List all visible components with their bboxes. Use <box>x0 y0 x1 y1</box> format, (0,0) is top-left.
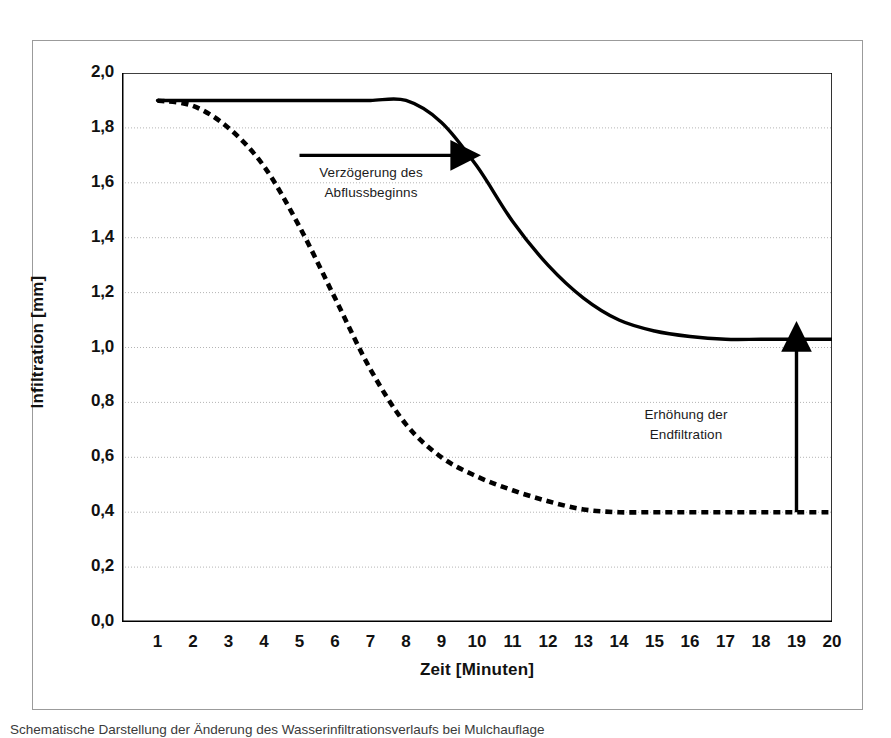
x-tick-label: 19 <box>780 632 814 652</box>
series-line-1 <box>158 100 833 512</box>
x-tick-label: 7 <box>354 632 388 652</box>
figure-container: Infiltration [mm] 0,00,20,40,60,81,01,21… <box>0 0 891 738</box>
x-tick-label: 3 <box>212 632 246 652</box>
gridlines <box>122 128 832 567</box>
x-tick-label: 5 <box>283 632 317 652</box>
increase-annotation-line1: Erhöhung der <box>611 405 761 425</box>
delay-annotation: Verzögerung des Abflussbeginns <box>276 163 466 202</box>
increase-annotation: Erhöhung der Endfiltration <box>611 405 761 444</box>
x-tick-label: 4 <box>247 632 281 652</box>
x-tick-label: 12 <box>531 632 565 652</box>
data-series <box>158 99 833 513</box>
x-tick-label: 11 <box>496 632 530 652</box>
x-tick-label: 6 <box>318 632 352 652</box>
x-tick-label: 16 <box>673 632 707 652</box>
series-line-0 <box>158 99 833 340</box>
annotation-arrows <box>300 155 797 512</box>
x-tick-label: 20 <box>815 632 849 652</box>
x-tick-label: 18 <box>744 632 778 652</box>
plot-area <box>122 73 832 622</box>
chart-svg <box>122 73 832 622</box>
delay-annotation-line1: Verzögerung des <box>276 163 466 183</box>
x-tick-label: 14 <box>602 632 636 652</box>
x-tick-label: 9 <box>425 632 459 652</box>
delay-annotation-line2: Abflussbeginns <box>276 183 466 203</box>
x-tick-label: 10 <box>460 632 494 652</box>
x-tick-label: 13 <box>567 632 601 652</box>
x-axis-label: Zeit [Minuten] <box>122 660 832 680</box>
increase-annotation-line2: Endfiltration <box>611 425 761 445</box>
figure-caption: Schematische Darstellung der Änderung de… <box>10 722 881 738</box>
x-tick-label: 15 <box>638 632 672 652</box>
x-tick-label: 17 <box>709 632 743 652</box>
x-tick-label: 8 <box>389 632 423 652</box>
x-tick-label: 1 <box>141 632 175 652</box>
x-tick-label: 2 <box>176 632 210 652</box>
